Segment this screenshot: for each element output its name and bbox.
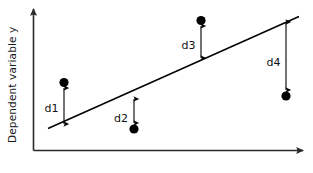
residual-annotation-d1: d1 bbox=[45, 78, 69, 124]
plot-canvas: Dependent variable y d1 d2 d3 d4 bbox=[0, 0, 313, 173]
data-point-3 bbox=[196, 16, 205, 25]
data-point-4 bbox=[281, 91, 290, 100]
regression-line bbox=[48, 17, 299, 129]
data-point-1 bbox=[59, 78, 68, 87]
residual-label-d3: d3 bbox=[182, 39, 196, 52]
y-axis-label: Dependent variable y bbox=[6, 27, 18, 143]
residuals-scatter-figure: Dependent variable y d1 d2 d3 d4 bbox=[0, 0, 313, 173]
residual-label-d2: d2 bbox=[114, 112, 128, 125]
residual-label-d1: d1 bbox=[45, 102, 59, 115]
residual-annotation-d2: d2 bbox=[114, 99, 139, 134]
residual-label-d4: d4 bbox=[267, 56, 281, 69]
residual-annotation-d4: d4 bbox=[267, 22, 291, 101]
residual-annotation-d3: d3 bbox=[182, 16, 206, 58]
data-point-2 bbox=[129, 124, 138, 133]
